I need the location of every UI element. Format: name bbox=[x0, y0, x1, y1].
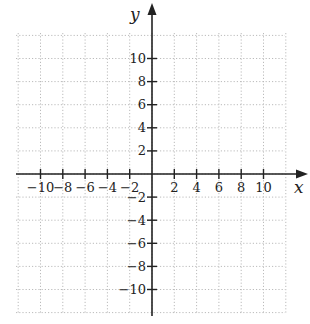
y-tick-label: 4 bbox=[138, 120, 146, 135]
x-tick-label: 10 bbox=[255, 180, 272, 195]
x-tick-label: −8 bbox=[53, 180, 72, 195]
axes bbox=[16, 3, 308, 316]
y-tick-label: −4 bbox=[127, 213, 146, 228]
x-tick-label: −4 bbox=[98, 180, 117, 195]
coordinate-plane: −10−8−6−4−2246810108642−2−4−6−8−10 x y bbox=[0, 0, 310, 324]
x-tick-label: 8 bbox=[237, 180, 245, 195]
y-tick-label: −2 bbox=[127, 190, 146, 205]
y-tick-label: 6 bbox=[138, 97, 146, 112]
grid bbox=[16, 33, 286, 313]
x-tick-label: 2 bbox=[170, 180, 178, 195]
y-tick-label: 2 bbox=[138, 143, 146, 158]
x-tick-label: 4 bbox=[192, 180, 200, 195]
x-axis-label: x bbox=[294, 177, 304, 197]
y-tick-label: −6 bbox=[127, 236, 146, 251]
x-tick-label: 6 bbox=[215, 180, 223, 195]
x-tick-label: −6 bbox=[76, 180, 95, 195]
x-tick-label: −10 bbox=[27, 180, 54, 195]
y-axis-arrow-icon bbox=[148, 3, 157, 15]
y-tick-label: 10 bbox=[129, 51, 146, 66]
y-tick-label: −8 bbox=[127, 259, 146, 274]
y-axis-label: y bbox=[129, 4, 140, 24]
y-tick-label: 8 bbox=[138, 74, 146, 89]
y-tick-label: −10 bbox=[119, 282, 146, 297]
